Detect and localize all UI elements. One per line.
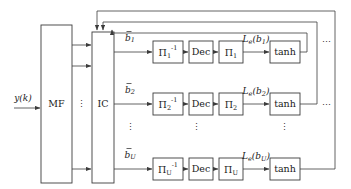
input-signal-label: y(k) [13, 93, 32, 103]
row-U-b-bar-label: bU [124, 150, 136, 161]
mf-label: MF [48, 98, 65, 109]
vertical-ellipsis-group: ⋮ ⋮ ⋮ [126, 122, 289, 132]
row-1-tanh-label: tanh [274, 46, 296, 57]
row-1-b-bar-label: b1 [125, 33, 135, 44]
row-1-extrinsic-label: Le(b1) [242, 34, 270, 46]
tanh-vertical-ellipsis: ⋮ [280, 122, 289, 132]
row-2-trailing-ellipsis: ⋯ [322, 100, 331, 110]
row-2-extrinsic-label: Le(b2) [242, 86, 270, 98]
row-U-input-label: bU [124, 149, 136, 161]
row-1-group: b1 Π1-1 Dec Π1 Le(b1) tanh ⋯ [114, 32, 331, 64]
block-diagram: y(k) MF ⋮ IC b1 [0, 0, 351, 189]
ic-label: IC [97, 98, 108, 109]
row-U-extrinsic-label: Le(bU) [241, 151, 271, 163]
row-2-tanh-label: tanh [274, 98, 296, 109]
branch-vertical-ellipsis: ⋮ [126, 122, 135, 132]
input-signal-group: y(k) [13, 93, 40, 109]
row-1-trailing-ellipsis: ⋯ [322, 37, 331, 47]
row-2-input-label: b2 [125, 84, 135, 96]
row-2-group: b2 Π2-1 Dec Π2 Le(b2) tanh ⋯ [114, 84, 331, 116]
row-U-group: bU ΠU-1 Dec ΠU Le(bU) tanh [114, 149, 300, 181]
diagram-canvas: y(k) MF ⋮ IC b1 [0, 0, 351, 189]
interference-canceller-block[interactable]: IC [92, 32, 114, 183]
matched-filter-block[interactable]: MF [41, 25, 72, 183]
row-U-tanh-label: tanh [274, 163, 296, 174]
row-U-decoder-label: Dec [192, 163, 211, 174]
row-2-decoder-label: Dec [192, 98, 211, 109]
decoder-vertical-ellipsis: ⋮ [192, 122, 201, 132]
mf-ic-vertical-ellipsis: ⋮ [77, 99, 86, 109]
row-1-decoder-label: Dec [192, 46, 211, 57]
row-2-b-bar-label: b2 [125, 85, 135, 96]
